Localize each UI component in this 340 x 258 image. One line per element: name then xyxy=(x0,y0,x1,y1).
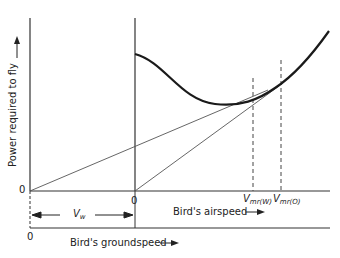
airspeed-arrow-icon xyxy=(245,209,265,215)
power-origin-label: 0 xyxy=(19,184,25,195)
vmr-o-label: Vmr(O) xyxy=(273,193,301,206)
groundspeed-label: Bird's groundspeed xyxy=(70,237,167,248)
airspeed-label: Bird's airspeed xyxy=(173,206,247,217)
power-curve-diagram xyxy=(0,0,340,258)
y-axis-arrow-icon xyxy=(14,36,20,58)
ground-origin-label: 0 xyxy=(27,231,33,242)
y-axis-label: Power required to fly xyxy=(7,63,18,167)
vmr-w-label: Vmr(W) xyxy=(243,193,272,206)
air-origin-label: 0 xyxy=(131,195,137,206)
wind-speed-label: Vw xyxy=(73,208,86,221)
power-curve xyxy=(135,31,329,105)
